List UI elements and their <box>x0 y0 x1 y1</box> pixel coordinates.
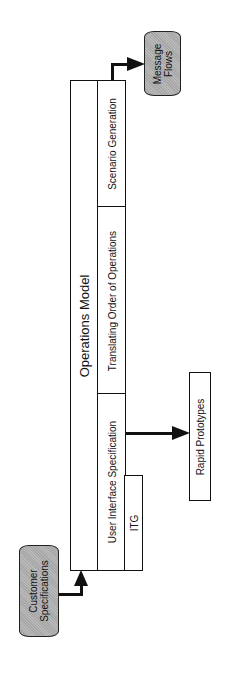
customer-specifications-node: Customer Specifications <box>19 545 59 637</box>
section-label: Translating Order of Operations <box>106 230 117 370</box>
label-line2: Flows <box>163 43 174 84</box>
arrowhead-right-icon <box>172 426 190 440</box>
label-line1: Message <box>152 43 163 84</box>
connector-rapid-prototypes <box>126 432 174 435</box>
connector-message-horizontal <box>111 63 128 66</box>
operations-model-block: Operations Model <box>70 80 99 571</box>
label-line1: Customer <box>28 560 39 622</box>
section-scenario-generation: Scenario Generation <box>97 80 126 208</box>
section-translating-order: Translating Order of Operations <box>97 206 126 395</box>
section-label: Scenario Generation <box>106 98 117 190</box>
operations-model-title: Operations Model <box>77 274 91 377</box>
arrowhead-right-icon <box>127 57 145 71</box>
customer-specifications-label: Customer Specifications <box>28 560 50 622</box>
rapid-prototypes-node: Rapid Prototypes <box>189 372 211 501</box>
message-flows-node: Message Flows <box>144 31 181 96</box>
arrowhead-up-icon <box>74 570 88 586</box>
itg-label: ITG <box>128 515 139 532</box>
message-flows-label: Message Flows <box>152 43 174 84</box>
section-label: User Interface Specification <box>106 421 117 543</box>
label-line2: Specifications <box>39 560 50 622</box>
itg-block: ITG <box>124 475 143 571</box>
rapid-prototypes-label: Rapid Prototypes <box>195 398 206 475</box>
section-user-interface-spec: User Interface Specification <box>97 393 126 571</box>
